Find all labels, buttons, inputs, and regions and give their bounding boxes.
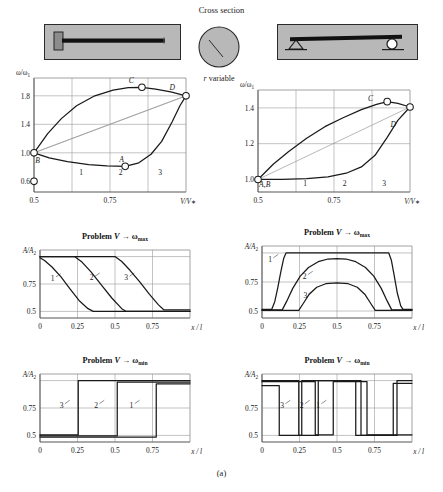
x-axis-label: V/V∗: [404, 198, 420, 206]
chart-bot-right-svg: Problem V → ωmin0.50.75A/A200.250.50.75x…: [230, 352, 430, 466]
x-tick-label: 0.25: [71, 446, 84, 455]
marker-label: A,B: [258, 180, 271, 189]
y-axis-label: ω/ω1: [240, 81, 254, 90]
region-label: 1: [303, 179, 307, 188]
x-tick-label: 0: [260, 322, 264, 331]
y-tick-label: 0.75: [245, 278, 258, 287]
y-axis-label: A/A2: [22, 371, 37, 380]
chart-title: Problem V → ωmax: [304, 228, 370, 238]
curve-label: 2: [90, 273, 94, 282]
y-tick-label: 0.5: [27, 431, 37, 440]
x-axis-label: x / l: [412, 448, 424, 456]
chart-title: Problem V → ωmax: [82, 232, 148, 242]
region-label: 3: [382, 179, 386, 188]
marker-label: D: [390, 120, 397, 129]
y-tick-label: 1.2: [245, 139, 255, 148]
marker-point: [31, 178, 38, 185]
chart-mid-right-svg: Problem V → ωmax0.50.75A/A200.250.50.75x…: [230, 222, 430, 342]
x-tick-label: 0.5: [253, 196, 263, 205]
chart-bot-right: Problem V → ωmin0.50.75A/A200.250.50.75x…: [230, 352, 430, 466]
marker-point-A: [122, 163, 129, 170]
y-tick-label: 0.75: [245, 404, 258, 413]
chart-top-left: 0.61.01.41.8ω/ω10.50.75V/V∗123ABCD: [4, 70, 200, 222]
cross-section-circle-svg: [196, 24, 242, 70]
y-axis-label: A/A2: [244, 371, 259, 380]
y-tick-label: 1.0: [21, 149, 31, 158]
chart-top-right-svg: 1.01.21.4ω/ω10.50.75V/V∗123A,BCD: [226, 82, 426, 222]
curve-label: 2: [303, 272, 307, 281]
x-tick-label: 0.25: [293, 322, 306, 331]
curve-label: 3: [124, 273, 128, 282]
chart-top-left-svg: 0.61.01.41.8ω/ω10.50.75V/V∗123ABCD: [4, 70, 200, 222]
curve-label: 3: [60, 401, 64, 410]
marker-label: C: [368, 94, 374, 103]
x-tick-label: 0.75: [368, 322, 381, 331]
marker-label: B: [35, 156, 40, 165]
curve-label: 1: [130, 401, 134, 410]
curve-label: 1: [316, 401, 320, 410]
chart-top-right: 1.01.21.4ω/ω10.50.75V/V∗123A,BCD: [226, 82, 426, 222]
marker-label: D: [169, 83, 176, 92]
curve-label: 1: [51, 274, 55, 283]
y-tick-label: 1.0: [245, 175, 255, 184]
x-tick-label: 0.75: [146, 322, 159, 331]
curve-label: 2: [300, 401, 304, 410]
x-axis-label: x / l: [190, 448, 202, 456]
marker-point-D: [183, 93, 190, 100]
x-tick-label: 0: [260, 446, 264, 455]
y-tick-label: 0.75: [23, 404, 36, 413]
marker-point-D: [407, 104, 414, 111]
curve-label: 2: [94, 401, 98, 410]
marker-label: A: [118, 155, 124, 164]
y-tick-label: 0.6: [21, 177, 31, 186]
region-label: 2: [343, 179, 347, 188]
x-tick-label: 0: [38, 322, 42, 331]
curve-label-leader: [95, 273, 100, 276]
x-axis-label: x / l: [190, 324, 202, 332]
beam-bar: [62, 39, 165, 43]
x-tick-label: 0.5: [110, 446, 120, 455]
x-tick-label: 0.75: [146, 446, 159, 455]
x-tick-label: 0.75: [328, 196, 341, 205]
y-tick-label: 0.75: [23, 280, 36, 289]
beam-bar: [290, 35, 402, 41]
x-axis-label: x / l: [412, 324, 424, 332]
x-tick-label: 0.25: [293, 446, 306, 455]
region-label: 1: [79, 168, 83, 177]
pin-support-triangle: [289, 40, 303, 49]
x-tick-label: 0.5: [332, 446, 342, 455]
x-tick-label: 0.5: [110, 322, 120, 331]
cross-section-title: Cross section: [0, 5, 443, 15]
curve-label: 1: [268, 255, 272, 264]
chart-bot-left: Problem V → ωmin0.50.75A/A200.250.50.75x…: [8, 352, 208, 466]
x-tick-label: 0.5: [29, 196, 39, 205]
roller-support-circle: [387, 39, 397, 49]
marker-point-C: [139, 84, 146, 91]
y-tick-label: 1.8: [21, 92, 31, 101]
r-symbol: r: [204, 74, 207, 83]
region-label: 2: [119, 168, 123, 177]
y-axis-label: ω/ω1: [16, 69, 30, 78]
curve-label: 3: [280, 401, 284, 410]
curve-label-leader: [305, 400, 310, 403]
chart-title: Problem V → ωmin: [83, 356, 149, 366]
y-tick-label: 0.5: [249, 431, 259, 440]
y-tick-label: 1.4: [245, 104, 255, 113]
curve-label-leader: [321, 400, 326, 403]
cantilever-beam-diagram: [44, 24, 181, 60]
curve-label-leader: [308, 271, 313, 274]
chart-mid-left-svg: Problem V → ωmax0.50.75A/A200.250.50.75x…: [8, 228, 208, 342]
y-tick-label: 0.5: [249, 307, 259, 316]
y-tick-label: 0.5: [27, 307, 37, 316]
simply-supported-beam-diagram: [277, 24, 418, 60]
x-tick-label: 0.5: [332, 322, 342, 331]
y-tick-label: 1.4: [21, 120, 31, 129]
marker-point-C: [384, 98, 391, 105]
figure-caption: (a): [0, 468, 443, 478]
curve-label-leader: [99, 400, 104, 403]
x-tick-label: 0: [38, 446, 42, 455]
curve-label: 3: [304, 291, 308, 300]
x-tick-label: 0.25: [71, 322, 84, 331]
simply-supported-beam-svg: [278, 25, 415, 57]
x-tick-label: 0.75: [104, 196, 117, 205]
